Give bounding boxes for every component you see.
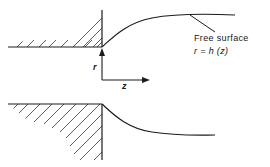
upper-free-surface-curve (102, 14, 235, 47)
lower-panel (4, 96, 215, 166)
free-surface-leader-line (190, 15, 215, 32)
diagram-canvas: Free surface r = h (z) r z (0, 0, 270, 167)
free-surface-figure (0, 0, 270, 167)
lower-hatching (4, 96, 118, 166)
z-axis-arrowhead (142, 77, 150, 83)
coordinate-axes (99, 48, 150, 83)
upper-panel (4, 10, 235, 84)
upper-wall-hatching (60, 14, 128, 78)
lower-free-surface-curve (102, 104, 215, 135)
r-axis-arrowhead (99, 48, 105, 56)
